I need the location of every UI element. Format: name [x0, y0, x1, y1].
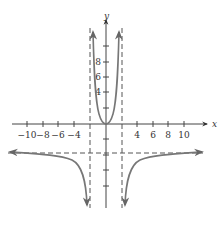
x-tick-label: −6	[51, 130, 65, 140]
y-axis-label: y	[103, 11, 110, 21]
x-tick-label: 4	[134, 130, 140, 140]
right-branch	[125, 152, 202, 205]
x-tick-label: −10	[18, 130, 37, 140]
axes	[12, 20, 207, 208]
y-tick-label: 6	[95, 72, 101, 82]
x-tick-label: 8	[165, 130, 171, 140]
x-tick-label: 10	[178, 130, 190, 140]
x-axis-label: x	[212, 119, 217, 129]
x-tick-label: 6	[150, 130, 156, 140]
x-tick-label: −8	[36, 130, 50, 140]
x-tick-label: −4	[67, 130, 81, 140]
y-tick-label: 8	[95, 57, 101, 67]
left-branch	[10, 152, 87, 205]
function-graph: −10 −8 −6 −4 4 6 8 10 4 6 8 x y	[0, 0, 224, 226]
